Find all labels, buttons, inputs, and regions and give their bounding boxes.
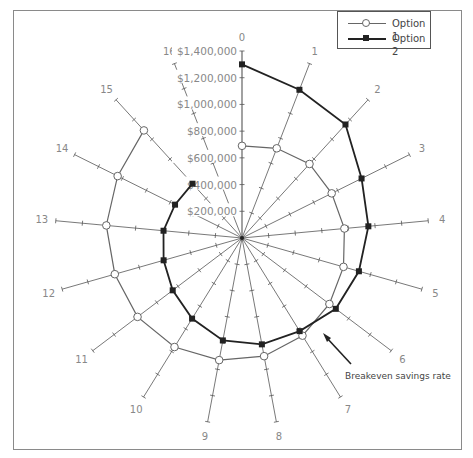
open-circle-marker bbox=[238, 142, 246, 150]
value-label: $1,000,000 bbox=[177, 98, 237, 110]
open-circle-marker bbox=[103, 222, 111, 230]
value-label: $1,200,000 bbox=[177, 72, 237, 84]
open-circle-marker bbox=[134, 313, 142, 321]
filled-square-marker bbox=[220, 337, 226, 343]
filled-square-marker bbox=[172, 202, 178, 208]
open-circle-marker bbox=[340, 263, 348, 271]
filled-square-marker bbox=[170, 287, 176, 293]
axis-label-14: 14 bbox=[56, 143, 69, 154]
legend: Option 1 Option 2 bbox=[337, 11, 431, 49]
open-circle-marker bbox=[328, 190, 336, 198]
axis-label-2: 2 bbox=[374, 84, 380, 95]
open-circle-marker bbox=[260, 352, 268, 360]
axis-label-8: 8 bbox=[276, 431, 282, 442]
axis-label-11: 11 bbox=[75, 354, 88, 365]
filled-square-marker bbox=[259, 341, 265, 347]
axis-1: 1 bbox=[242, 46, 318, 238]
open-circle-marker bbox=[114, 172, 122, 180]
radar-chart: 012345678910111213141516 $200,000$400,00… bbox=[0, 0, 473, 458]
axis-label-12: 12 bbox=[42, 288, 55, 299]
legend-item-option-1: Option 1 bbox=[338, 17, 432, 31]
open-circle-marker bbox=[306, 160, 314, 168]
open-circle-icon bbox=[362, 19, 370, 27]
open-circle-marker bbox=[171, 343, 179, 351]
filled-square-marker bbox=[356, 268, 362, 274]
axis-label-6: 6 bbox=[399, 354, 405, 365]
filled-square-marker bbox=[365, 223, 371, 229]
value-label: $200,000 bbox=[187, 205, 237, 217]
axis-label-4: 4 bbox=[439, 214, 445, 225]
filled-square-marker bbox=[161, 257, 167, 263]
filled-square-marker bbox=[359, 175, 365, 181]
axis-6: 6 bbox=[242, 238, 406, 365]
axis-label-3: 3 bbox=[419, 143, 425, 154]
arrow-line bbox=[326, 337, 351, 364]
axis-13: 13 bbox=[35, 214, 242, 238]
value-label: $800,000 bbox=[187, 125, 237, 137]
legend-label-option-2: Option 2 bbox=[392, 32, 432, 58]
filled-square-marker bbox=[189, 316, 195, 322]
value-label: $1,400,000 bbox=[177, 45, 237, 57]
value-axis-labels: $200,000$400,000$600,000$800,000$1,000,0… bbox=[172, 43, 238, 217]
filled-square-marker bbox=[161, 228, 167, 234]
axis-11: 11 bbox=[75, 238, 242, 365]
open-circle-marker bbox=[341, 225, 349, 233]
axis-label-0: 0 bbox=[239, 32, 245, 43]
filled-square-marker bbox=[296, 87, 302, 93]
open-circle-marker bbox=[215, 356, 223, 364]
open-circle-marker bbox=[326, 300, 334, 308]
legend-item-option-2: Option 2 bbox=[338, 32, 432, 46]
filled-square-marker bbox=[333, 306, 339, 312]
axis-label-5: 5 bbox=[432, 288, 438, 299]
filled-square-icon bbox=[363, 35, 369, 41]
breakeven-annotation: Breakeven savings rate bbox=[323, 333, 451, 381]
axis-label-13: 13 bbox=[35, 214, 48, 225]
open-circle-marker bbox=[273, 145, 281, 153]
filled-square-marker bbox=[342, 121, 348, 127]
open-circle-marker bbox=[111, 270, 119, 278]
filled-square-marker bbox=[190, 181, 196, 187]
value-label: $600,000 bbox=[187, 152, 237, 164]
axis-label-7: 7 bbox=[345, 404, 351, 415]
axis-label-10: 10 bbox=[130, 404, 143, 415]
open-circle-marker bbox=[140, 127, 148, 135]
filled-square-marker bbox=[297, 328, 303, 334]
axis-12: 12 bbox=[42, 238, 242, 299]
filled-square-marker bbox=[239, 61, 245, 67]
annotation-label: Breakeven savings rate bbox=[345, 371, 451, 381]
axis-label-1: 1 bbox=[311, 46, 317, 57]
axis-label-15: 15 bbox=[100, 84, 113, 95]
axis-label-9: 9 bbox=[202, 431, 208, 442]
